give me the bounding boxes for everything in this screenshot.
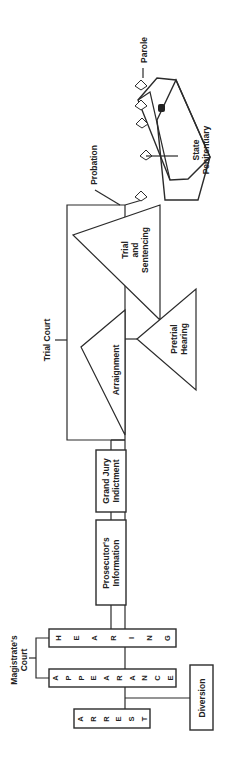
hearing-letter: R: [109, 635, 118, 641]
appearance-letter: E: [89, 675, 98, 680]
arrest-letter: S: [127, 716, 136, 721]
probation-label: Probation: [89, 145, 99, 185]
probation-connector: [95, 190, 120, 205]
hearing-letter: G: [163, 635, 172, 641]
turret-icon: [135, 191, 147, 201]
grand-jury-indictment-line2: Indictment: [111, 459, 121, 502]
state-penitentiary-icon: [135, 78, 210, 201]
diversion-node: Diversion: [190, 665, 213, 730]
hearing-letter: A: [90, 635, 99, 641]
state-penitentiary-line2: Penitentiary: [201, 125, 211, 174]
trial-and-sentencing-line3: Sentencing: [140, 227, 150, 273]
prosecutors-information-node: Prosecutor's Information: [96, 520, 126, 605]
appearance-letter: P: [64, 675, 73, 680]
arrest-letter: A: [76, 716, 85, 722]
arrest-letter: R: [89, 716, 98, 722]
parole-label: Parole: [139, 37, 149, 63]
hearing-letter: E: [72, 635, 81, 640]
appearance-letter: R: [115, 675, 124, 681]
turret-icon: [135, 80, 147, 90]
arrest-letter: T: [140, 716, 149, 721]
arrest-node: [74, 709, 150, 728]
appearance-letter: A: [51, 675, 60, 681]
grand-jury-indictment-line1: Grand Jury: [101, 458, 111, 504]
appearance-letter: A: [102, 675, 111, 681]
appearance-letter: N: [140, 675, 149, 680]
prosecutors-information-line2: Information: [111, 540, 121, 587]
trial-court-label: Trial Court: [42, 319, 52, 362]
turret-icon: [140, 150, 152, 160]
magistrates-court-bracket: [36, 638, 49, 678]
arrest-letter: R: [102, 716, 111, 722]
hearing-letter: N: [145, 635, 154, 640]
prosecutors-information-line1: Prosecutor's: [101, 537, 111, 589]
appearance-letter: C: [153, 675, 162, 681]
appearance-letter: E: [166, 675, 175, 680]
hearing-letter: H: [54, 635, 63, 640]
appearance-letter: P: [77, 675, 86, 680]
penitentiary-connector: [125, 200, 142, 205]
magistrates-court-line1: Magistrate's: [9, 635, 19, 685]
arrest-letter: E: [114, 716, 123, 721]
trial-and-sentencing-line2: and: [130, 242, 140, 257]
trial-and-sentencing-node: Trial and Sentencing: [73, 205, 160, 320]
state-penitentiary-line1: State: [191, 139, 201, 160]
penitentiary-door-icon: [158, 104, 165, 112]
hearing-letter: I: [127, 637, 136, 639]
magistrates-court-line2: Court: [19, 649, 29, 672]
diversion-label: Diversion: [197, 679, 207, 718]
grand-jury-indictment-node: Grand Jury Indictment: [96, 450, 126, 512]
arraignment-node: Arraignment: [81, 310, 125, 435]
appearance-letter: A: [128, 675, 137, 681]
pretrial-hearing-line2: Hearing: [179, 323, 189, 355]
pretrial-hearing-line1: Pretrial: [169, 324, 179, 353]
justice-flow-diagram: Diversion Prosecutor's Information Grand…: [0, 0, 225, 761]
trial-and-sentencing-line1: Trial: [120, 241, 130, 258]
arraignment-label: Arraignment: [111, 345, 121, 396]
